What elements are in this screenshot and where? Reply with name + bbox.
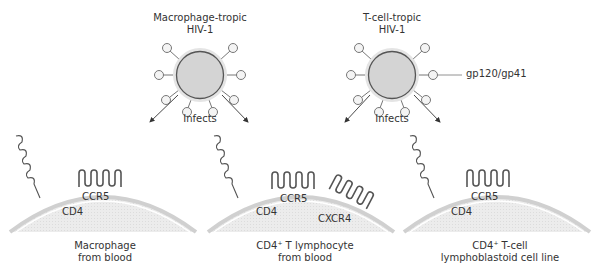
virus-title-line2: HIV-1 — [140, 24, 260, 36]
ccr5-receptor-icon — [272, 172, 314, 189]
ccr5-label: CCR5 — [280, 193, 307, 205]
virus-title-line2: HIV-1 — [342, 24, 442, 36]
cd4-receptor-icon — [410, 136, 434, 198]
caption-line1: CD4+ T lymphocyte — [230, 240, 380, 252]
diagram-canvas — [0, 0, 594, 269]
cell-caption-macrophage: Macrophage from blood — [40, 240, 170, 264]
infects-label: Infects — [170, 113, 230, 125]
caption-line2: from blood — [230, 252, 380, 264]
virus-title-t-cell-tropic: T-cell-tropic HIV-1 — [342, 12, 442, 36]
cxcr4-label: CXCR4 — [318, 213, 351, 225]
infects-label: Infects — [362, 113, 422, 125]
caption-line2: lymphoblastoid cell line — [425, 252, 575, 264]
cd4-label: CD4 — [256, 206, 277, 218]
gp120-gp41-label: gp120/gp41 — [466, 68, 527, 80]
caption-line2: from blood — [40, 252, 170, 264]
cell-caption-lymphoblastoid: CD4+ T-cell lymphoblastoid cell line — [425, 240, 575, 264]
cd4-label: CD4 — [62, 206, 83, 218]
caption-line1: Macrophage — [40, 240, 170, 252]
caption-line1: CD4+ T-cell — [425, 240, 575, 252]
cd4-label: CD4 — [451, 206, 472, 218]
virus-title-line1: Macrophage-tropic — [140, 12, 260, 24]
cell-caption-t-lymphocyte: CD4+ T lymphocyte from blood — [230, 240, 380, 264]
ccr5-label: CCR5 — [82, 191, 109, 203]
virus-title-macrophage-tropic: Macrophage-tropic HIV-1 — [140, 12, 260, 36]
cd4-receptor-icon — [16, 136, 40, 198]
t-cell-tropic-virus-icon — [347, 44, 463, 117]
ccr5-receptor-icon — [467, 170, 509, 187]
ccr5-receptor-icon — [79, 170, 121, 187]
cd4-receptor-icon — [214, 136, 238, 198]
ccr5-label: CCR5 — [471, 191, 498, 203]
virus-title-line1: T-cell-tropic — [342, 12, 442, 24]
